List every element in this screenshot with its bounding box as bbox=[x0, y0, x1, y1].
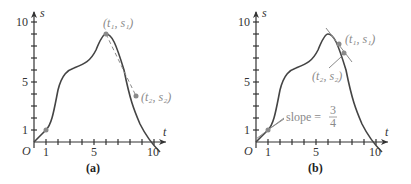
y-axis-label: s bbox=[40, 6, 45, 20]
panel-a: s t O 1 5 10 1 5 10 (t₁, s₁) (t₂, s₂) (a… bbox=[16, 6, 171, 175]
caption-a: (a) bbox=[86, 161, 100, 175]
y-tick-label: 10 bbox=[238, 15, 250, 29]
x-axis-label: t bbox=[385, 125, 389, 139]
position-curve bbox=[256, 34, 382, 152]
x-tick-label: 5 bbox=[91, 145, 97, 159]
figure: s t O 1 5 10 1 5 10 (t₁, s₁) (t₂, s₂) (a… bbox=[0, 0, 411, 184]
y-tick-label: 1 bbox=[22, 123, 28, 137]
y-tick-label: 1 bbox=[244, 123, 250, 137]
y-tick-label: 5 bbox=[244, 75, 250, 89]
caption-b: (b) bbox=[308, 161, 323, 175]
x-tick-label: 1 bbox=[43, 145, 49, 159]
panel-b: s t O 1 5 10 1 5 10 (t₁, s₁) (t₂, s₂) sl… bbox=[238, 6, 389, 175]
slope-denominator: 4 bbox=[330, 116, 336, 130]
secant-line bbox=[106, 34, 136, 96]
y-tick-label: 5 bbox=[22, 75, 28, 89]
point-marker bbox=[44, 128, 49, 133]
axes bbox=[31, 12, 166, 148]
point-marker bbox=[134, 94, 139, 99]
x-tick-label: 10 bbox=[369, 145, 381, 159]
point-label-1: (t₁, s₁) bbox=[345, 32, 375, 46]
y-tick-label: 10 bbox=[16, 15, 28, 29]
origin-label: O bbox=[22, 144, 31, 158]
point-label-2: (t₂, s₂) bbox=[312, 69, 342, 83]
x-tick-label: 10 bbox=[147, 145, 159, 159]
x-tick-label: 1 bbox=[265, 145, 271, 159]
point-label-2: (t₂, s₂) bbox=[141, 90, 171, 104]
x-tick-label: 5 bbox=[313, 145, 319, 159]
point-label-1: (t₁, s₁) bbox=[103, 16, 133, 30]
origin-label: O bbox=[244, 144, 253, 158]
pointer-arrow bbox=[329, 57, 341, 68]
y-axis-label: s bbox=[262, 6, 267, 20]
point-marker bbox=[104, 32, 109, 37]
x-axis-label: t bbox=[163, 125, 167, 139]
point-marker bbox=[342, 51, 347, 56]
point-marker bbox=[266, 128, 271, 133]
point-marker bbox=[337, 42, 342, 47]
slope-label: slope = bbox=[286, 110, 321, 124]
slope-numerator: 3 bbox=[330, 103, 336, 117]
